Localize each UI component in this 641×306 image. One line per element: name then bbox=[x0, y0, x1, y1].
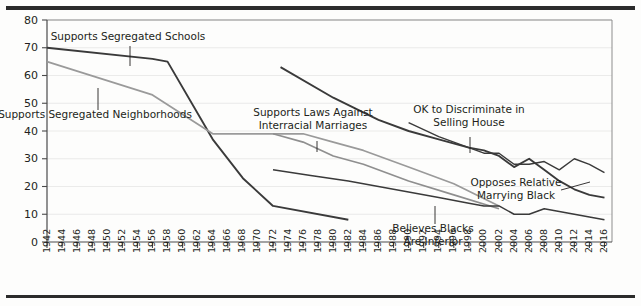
x-tick-label: 2006 bbox=[523, 229, 534, 253]
x-tick-label: 1986 bbox=[372, 229, 383, 253]
x-tick-label: 1980 bbox=[327, 229, 338, 253]
x-tick-label: 1966 bbox=[221, 229, 232, 253]
x-tick-label: 2010 bbox=[553, 229, 564, 253]
series-line bbox=[273, 134, 499, 209]
y-tick-label: 20 bbox=[24, 180, 38, 193]
x-axis-group: 1942194419461948195019521954195619581960… bbox=[41, 229, 613, 253]
x-tick-label: 1946 bbox=[71, 229, 82, 253]
x-tick-label: 1970 bbox=[251, 229, 262, 253]
line-chart: 01020304050607080 1942194419461948195019… bbox=[0, 0, 641, 306]
x-tick-label: 2002 bbox=[493, 229, 504, 253]
series-annotation-label: Supports Segregated Neighborhoods bbox=[0, 108, 192, 120]
series-annotation-label: Believes BlacksAre Inferior bbox=[392, 222, 473, 247]
series-annotation-label: Opposes RelativeMarrying Black bbox=[470, 176, 561, 201]
x-tick-label: 1978 bbox=[312, 229, 323, 253]
x-tick-label: 1972 bbox=[267, 229, 278, 253]
y-axis-group: 01020304050607080 bbox=[24, 14, 47, 249]
x-tick-label: 1958 bbox=[161, 229, 172, 253]
y-tick-label: 10 bbox=[24, 208, 38, 221]
x-tick-label: 1968 bbox=[236, 229, 247, 253]
x-tick-label: 2004 bbox=[508, 229, 519, 253]
x-tick-label: 2008 bbox=[538, 229, 549, 253]
y-tick-label: 80 bbox=[24, 14, 38, 27]
x-tick-label: 1974 bbox=[282, 229, 293, 253]
x-tick-label: 2014 bbox=[583, 229, 594, 253]
x-tick-label: 1982 bbox=[342, 229, 353, 253]
x-tick-label: 1942 bbox=[41, 229, 52, 253]
x-tick-label: 1944 bbox=[56, 229, 67, 253]
y-tick-label: 60 bbox=[24, 69, 38, 82]
x-tick-label: 1976 bbox=[297, 229, 308, 253]
series-annotation-label: Supports Segregated Schools bbox=[51, 30, 206, 42]
x-tick-label: 2012 bbox=[568, 229, 579, 253]
x-tick-label: 1952 bbox=[116, 229, 127, 253]
x-tick-label: 1960 bbox=[176, 229, 187, 253]
x-tick-label: 2016 bbox=[598, 229, 609, 253]
y-tick-label: 40 bbox=[24, 125, 38, 138]
series-annotation-label: OK to Discriminate inSelling House bbox=[413, 103, 525, 128]
x-tick-label: 1962 bbox=[191, 229, 202, 253]
x-tick-label: 1956 bbox=[146, 229, 157, 253]
x-tick-label: 1950 bbox=[101, 229, 112, 253]
x-tick-label: 1984 bbox=[357, 229, 368, 253]
y-tick-label: 0 bbox=[31, 236, 38, 249]
x-tick-label: 2000 bbox=[477, 229, 488, 253]
y-tick-label: 30 bbox=[24, 152, 38, 165]
chart-figure: 01020304050607080 1942194419461948195019… bbox=[0, 0, 641, 306]
x-tick-label: 1964 bbox=[206, 229, 217, 253]
series-annotation-label: Supports Laws AgainstInterracial Marriag… bbox=[253, 106, 372, 131]
x-tick-label: 1948 bbox=[86, 229, 97, 253]
x-tick-label: 1954 bbox=[131, 229, 142, 253]
series-line bbox=[409, 123, 605, 173]
y-tick-label: 70 bbox=[24, 41, 38, 54]
